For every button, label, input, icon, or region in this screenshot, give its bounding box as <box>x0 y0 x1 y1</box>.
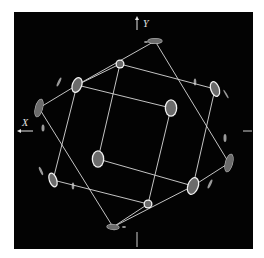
faint-spot <box>194 79 197 86</box>
faint-spot <box>144 41 148 43</box>
diffraction-figure: Y X <box>0 0 264 258</box>
x-axis-label: X <box>21 117 29 128</box>
faint-spot <box>42 125 45 132</box>
spot-top <box>147 38 162 44</box>
spot-ring-a <box>116 60 125 69</box>
spot-ring-bottom <box>144 200 153 209</box>
faint-spot <box>122 226 126 228</box>
faint-spot <box>224 134 227 142</box>
faint-spot <box>72 183 75 190</box>
spot-center-c <box>165 99 178 117</box>
spot-center-left <box>92 150 105 168</box>
